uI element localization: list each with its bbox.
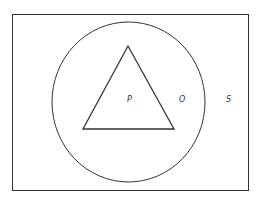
- label-P: P: [127, 95, 132, 104]
- set-P-triangle: [83, 46, 174, 129]
- label-O: O: [179, 95, 185, 104]
- label-S: S: [226, 95, 231, 104]
- venn-diagram: P O S: [0, 0, 260, 198]
